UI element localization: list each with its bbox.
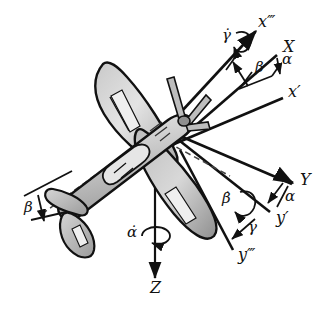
axis-label-x-prime: x′ — [288, 84, 301, 100]
angle-label-beta-upper: β — [255, 60, 264, 75]
axis-label-x-triple-prime: x‴ — [258, 14, 275, 30]
beta-spin-arrow — [235, 191, 255, 215]
arrow-beta-upper — [233, 62, 248, 86]
axis-label-y-triple-prime: y‴ — [238, 247, 255, 263]
angle-label-gamma-right: γ — [248, 220, 257, 235]
gamma-spin-arrow — [234, 32, 251, 52]
axis-label-y-prime: y′ — [276, 210, 289, 226]
propeller-hub — [178, 116, 190, 126]
angle-label-alpha-upper: α — [282, 52, 292, 67]
angle-label-beta-left: β — [24, 200, 33, 215]
rate-label-alpha-dot: α̇ — [127, 225, 137, 240]
propeller-blade-upper — [167, 77, 185, 119]
axis-label-Z: Z — [150, 280, 161, 296]
diagram-svg — [0, 0, 330, 333]
angle-label-alpha-right: α — [285, 189, 295, 204]
figure-canvas: x‴ X x′ Y y′ y‴ Z β α α γ β γ̇ β̇ α̇ — [0, 0, 330, 333]
rate-label-beta-dot: β̇ — [222, 191, 231, 206]
axis-label-Y: Y — [300, 172, 311, 188]
arrow-alpha-upper — [277, 58, 280, 74]
rate-label-gamma-dot: γ̇ — [222, 28, 231, 43]
